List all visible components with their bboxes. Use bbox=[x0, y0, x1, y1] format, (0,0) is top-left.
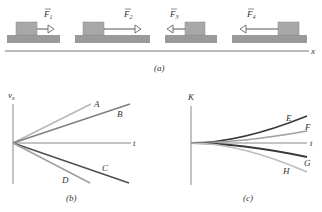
label-b: B bbox=[117, 109, 123, 119]
vx-axis-label: vx bbox=[8, 90, 15, 101]
force-2-arrowhead-icon bbox=[135, 25, 141, 33]
line-c bbox=[13, 143, 129, 183]
curve-g bbox=[191, 143, 307, 157]
block-3 bbox=[185, 22, 205, 35]
block-4 bbox=[278, 22, 299, 35]
force-3-arrowhead-icon bbox=[167, 25, 173, 33]
label-f: F bbox=[304, 122, 311, 132]
label-g: G bbox=[304, 158, 311, 168]
label-d: D bbox=[61, 175, 69, 185]
force-1-label: F1 bbox=[43, 9, 53, 20]
force-4-arrowhead-icon bbox=[240, 25, 246, 33]
figure: F1 F2 F3 F4 x (a) vx t bbox=[0, 0, 322, 212]
ground-1 bbox=[7, 35, 60, 43]
ground-2 bbox=[75, 35, 150, 43]
caption-c: (c) bbox=[243, 193, 253, 203]
force-1-arrowhead-icon bbox=[48, 25, 54, 33]
panel-b: vx t A B C D (b) bbox=[8, 90, 136, 203]
panel-a: F1 F2 F3 F4 x (a) bbox=[5, 9, 315, 73]
block-2 bbox=[83, 22, 104, 35]
t-axis-label-c: t bbox=[310, 138, 313, 148]
t-axis-label-b: t bbox=[133, 138, 136, 148]
panel-c: K t E F G H (c) bbox=[187, 92, 313, 203]
line-a bbox=[13, 104, 91, 143]
line-d bbox=[13, 143, 90, 183]
label-a: A bbox=[93, 99, 100, 109]
ground-3 bbox=[165, 35, 217, 43]
curve-f bbox=[191, 131, 307, 143]
k-axis-label: K bbox=[187, 92, 195, 102]
block-1 bbox=[16, 22, 37, 35]
force-2-label: F2 bbox=[123, 9, 133, 20]
force-3-label: F3 bbox=[169, 9, 179, 20]
caption-a: (a) bbox=[154, 63, 165, 73]
force-4-label: F4 bbox=[246, 9, 256, 20]
line-b bbox=[13, 104, 130, 143]
caption-b: (b) bbox=[66, 193, 77, 203]
physics-diagram: F1 F2 F3 F4 x (a) vx t bbox=[0, 0, 322, 212]
label-e: E bbox=[285, 113, 292, 123]
ground-4 bbox=[232, 35, 307, 43]
label-c: C bbox=[102, 163, 109, 173]
x-axis-label: x bbox=[310, 46, 315, 56]
label-h: H bbox=[282, 166, 290, 176]
